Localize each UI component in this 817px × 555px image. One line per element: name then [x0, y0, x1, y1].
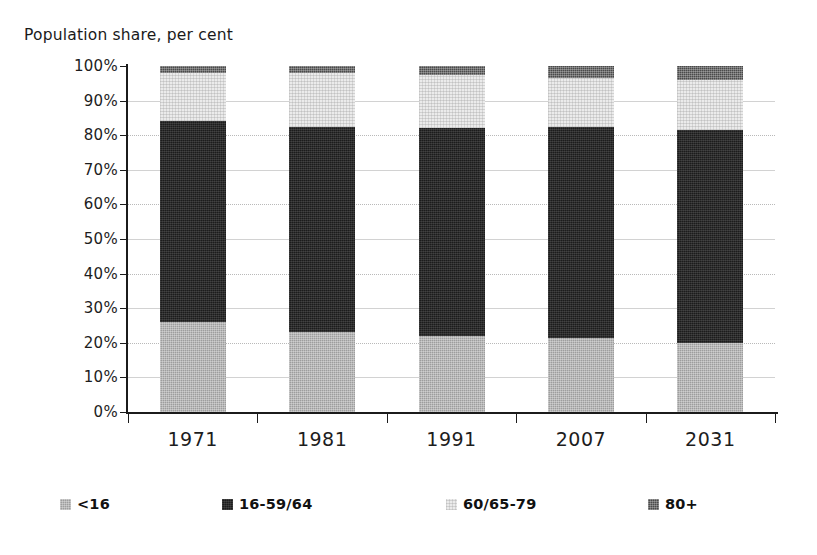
y-axis-tick [120, 308, 127, 309]
y-axis-tick-label: 50% [46, 230, 118, 248]
y-axis-tick [120, 239, 127, 240]
chart-legend: <1616-59/6460/65-7980+ [0, 496, 817, 536]
y-axis-tick-label: 30% [46, 299, 118, 317]
x-axis-tick [775, 414, 776, 423]
x-axis-tick [257, 414, 258, 423]
bar-segment [548, 78, 614, 126]
x-axis-tick-label-1991: 1991 [426, 428, 476, 450]
y-axis-tick [120, 170, 127, 171]
legend-item-3[interactable]: 80+ [648, 496, 698, 512]
y-axis-tick-labels: 0%10%20%30%40%50%60%70%80%90%100% [38, 0, 118, 555]
legend-swatch-working-age [222, 499, 233, 510]
bar-segment [289, 66, 355, 73]
bar-segment [419, 75, 485, 129]
bar-segment [548, 338, 614, 412]
bar-segment [160, 322, 226, 412]
legend-item-0[interactable]: <16 [60, 496, 110, 512]
bar-segment [548, 127, 614, 338]
y-axis-tick-label: 90% [46, 92, 118, 110]
bar-segment [160, 66, 226, 73]
legend-item-1[interactable]: 16-59/64 [222, 496, 312, 512]
bar-2031 [677, 66, 743, 412]
bar-1981 [289, 66, 355, 412]
bar-segment [289, 73, 355, 127]
x-axis-tick-label-1971: 1971 [168, 428, 218, 450]
plot-area [128, 66, 775, 412]
x-axis-tick [516, 414, 517, 423]
y-axis-tick-label: 100% [46, 57, 118, 75]
legend-swatch-under16 [60, 499, 71, 510]
bar-segment [677, 343, 743, 412]
chart-figure: Population share, per cent 0%10%20%30%40… [0, 0, 817, 555]
y-axis-tick [120, 343, 127, 344]
y-axis-tick [120, 66, 127, 67]
bar-1971 [160, 66, 226, 412]
bar-segment [677, 80, 743, 130]
legend-swatch-80plus [648, 499, 659, 510]
bar-segment [419, 336, 485, 412]
x-axis-tick [128, 414, 129, 423]
legend-label: 16-59/64 [239, 496, 312, 512]
bar-segment [419, 66, 485, 75]
y-axis-tick [120, 377, 127, 378]
y-axis-tick-label: 10% [46, 368, 118, 386]
x-axis-tick-label-2031: 2031 [685, 428, 735, 450]
bar-1991 [419, 66, 485, 412]
bar-segment [419, 128, 485, 336]
x-axis-tick [646, 414, 647, 423]
y-axis-tick-label: 0% [46, 403, 118, 421]
legend-swatch-older [446, 499, 457, 510]
y-axis-tick-label: 70% [46, 161, 118, 179]
x-axis-line [126, 412, 778, 414]
legend-item-2[interactable]: 60/65-79 [446, 496, 536, 512]
bar-2007 [548, 66, 614, 412]
bar-segment [160, 73, 226, 121]
y-axis-tick [120, 135, 127, 136]
bar-segment [289, 332, 355, 412]
y-axis-tick [120, 101, 127, 102]
bar-segment [160, 121, 226, 322]
x-axis-tick [387, 414, 388, 423]
x-axis-tick-label-1981: 1981 [297, 428, 347, 450]
bar-segment [289, 127, 355, 333]
y-axis-tick-label: 60% [46, 195, 118, 213]
legend-label: 80+ [665, 496, 698, 512]
bar-segment [677, 130, 743, 343]
y-axis-tick-label: 20% [46, 334, 118, 352]
bar-segment [548, 66, 614, 78]
y-axis-tick-label: 40% [46, 265, 118, 283]
legend-label: 60/65-79 [463, 496, 536, 512]
y-axis-tick [120, 412, 127, 413]
legend-label: <16 [77, 496, 110, 512]
y-axis-tick [120, 204, 127, 205]
x-axis-tick-label-2007: 2007 [556, 428, 606, 450]
bar-segment [677, 66, 743, 80]
y-axis-tick [120, 274, 127, 275]
y-axis-tick-label: 80% [46, 126, 118, 144]
